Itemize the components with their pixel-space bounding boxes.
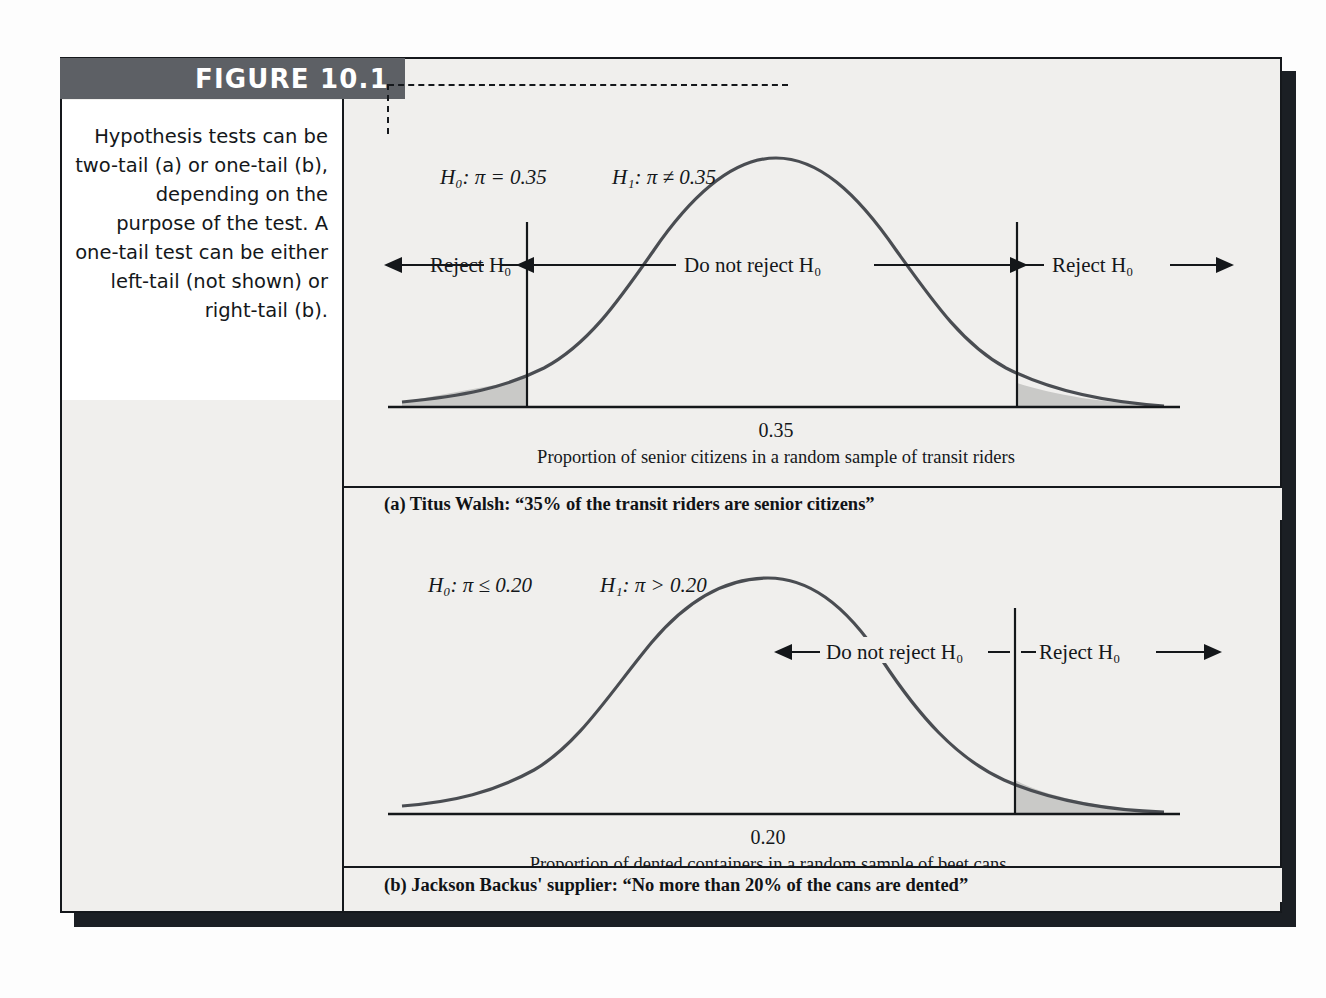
- chart-panel-b: H₀: π ≤ 0.20 H₁: π > 0.20 Do not reject …: [344, 530, 1282, 910]
- right-reject-label-b: Reject H₀: [1039, 640, 1120, 664]
- left-reject-label-a: Reject H₀: [430, 253, 511, 277]
- normal-curve-a: [402, 158, 1164, 406]
- null-hypothesis-b: H₀: π ≤ 0.20: [427, 573, 533, 597]
- right-reject-label-a: Reject H₀: [1052, 253, 1133, 277]
- figure-page: FIGURE 10.1 Hypothesis tests can be two-…: [0, 0, 1326, 998]
- alt-hypothesis-b: H₁: π > 0.20: [599, 573, 707, 597]
- center-tick-label-b: 0.20: [751, 826, 786, 848]
- normal-curve-b: [402, 578, 1164, 812]
- axis-caption-a: Proportion of senior citizens in a rando…: [537, 447, 1015, 467]
- center-label-a: Do not reject H₀: [684, 253, 821, 277]
- figure-number-banner: FIGURE 10.1: [60, 58, 405, 99]
- null-hypothesis-a: H₀: π = 0.35: [439, 165, 547, 189]
- chart-a-svg: H₀: π = 0.35 H₁: π ≠ 0.35 Reject H₀ Do n…: [344, 100, 1282, 530]
- frame-shadow-bottom: [74, 913, 1296, 927]
- frame-shadow-right: [1282, 71, 1296, 927]
- chart-panel-a: H₀: π = 0.35 H₁: π ≠ 0.35 Reject H₀ Do n…: [344, 100, 1282, 530]
- panel-a-caption-strip: (a) Titus Walsh: “35% of the transit rid…: [344, 486, 1282, 520]
- figure-caption-block: Hypothesis tests can be two-tail (a) or …: [62, 100, 342, 400]
- chart-b-svg: H₀: π ≤ 0.20 H₁: π > 0.20 Do not reject …: [344, 530, 1282, 910]
- panel-a-caption: (a) Titus Walsh: “35% of the transit rid…: [384, 494, 875, 514]
- center-tick-label-a: 0.35: [759, 419, 794, 441]
- center-label-b: Do not reject H₀: [826, 640, 963, 664]
- panel-b-caption-strip: (b) Jackson Backus' supplier: “No more t…: [344, 866, 1282, 902]
- alt-hypothesis-a: H₁: π ≠ 0.35: [611, 165, 716, 189]
- right-rejection-tail-fill-b: [1015, 780, 1164, 814]
- figure-caption-text: Hypothesis tests can be two-tail (a) or …: [72, 122, 328, 325]
- leader-line-horizontal: [388, 84, 788, 86]
- panel-b-caption: (b) Jackson Backus' supplier: “No more t…: [384, 875, 968, 895]
- figure-number-label: FIGURE 10.1: [195, 64, 389, 94]
